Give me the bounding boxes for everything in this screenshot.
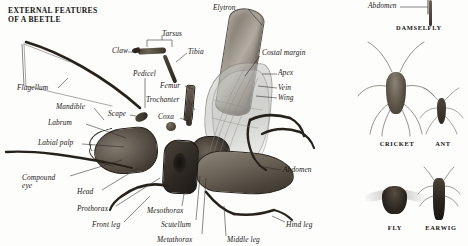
label-mandible: Mandible: [56, 103, 85, 111]
label-middle-leg: Middle leg: [227, 236, 260, 244]
label-head: Head: [77, 188, 93, 196]
label-prothorax: Prothorax: [77, 205, 108, 213]
flagellum-leader: [58, 78, 68, 88]
label-labrum: Labrum: [48, 119, 72, 127]
femur-specimen: [183, 85, 195, 122]
page-title: EXTERNAL FEATURES OF A BEETLE: [8, 6, 98, 25]
caption-damselfly: DAMSELFLY: [388, 24, 450, 31]
caption-cricket: CRICKET: [366, 140, 428, 147]
label-apex: Apex: [278, 69, 293, 77]
earwig-specimen: [433, 178, 445, 220]
label-compound-eye: Compound eye: [22, 174, 55, 190]
label-scutellum: Scutellum: [161, 221, 191, 229]
abdomen-specimen: [195, 149, 296, 198]
hindleg-leader: [272, 216, 285, 222]
tibia-specimen: [163, 54, 178, 83]
ant-specimen: [437, 98, 446, 124]
fly-specimen: [382, 186, 407, 214]
mandible-leader: [94, 108, 104, 120]
label-femur: Femur: [160, 82, 180, 90]
label-coxa: Coxa: [158, 113, 174, 121]
label-metathorax: Metathorax: [157, 236, 192, 244]
cricket-specimen: [386, 72, 406, 114]
prothorax-specimen: [162, 139, 200, 195]
label-flagellum: Flagellum: [17, 84, 48, 92]
caption-fly: FLY: [376, 224, 414, 231]
diagram-page: EXTERNAL FEATURES OF A BEETLE: [0, 0, 468, 246]
flagellum-bracket-a: [22, 44, 24, 86]
damselfly-specimen: [429, 0, 432, 26]
tibia-leader: [176, 53, 187, 62]
label-elytron: Elytron: [213, 4, 236, 12]
label-tibia: Tibia: [188, 48, 204, 56]
prothorax-leader: [116, 178, 160, 206]
label-abdomen-beetle: Abdomen: [283, 166, 312, 174]
label-tarsus: Tarsus: [162, 30, 182, 38]
middleleg-leader: [224, 206, 226, 236]
label-costal-margin: Costal margin: [262, 49, 306, 57]
label-front-leg: Front leg: [92, 221, 120, 229]
caption-ant: ANT: [424, 140, 462, 147]
label-hind-leg: Hind leg: [286, 221, 312, 229]
scape-specimen: [134, 111, 149, 123]
label-vein: Vein: [278, 84, 291, 92]
trochanter-specimen: [186, 119, 192, 126]
label-claw: Claw: [112, 47, 128, 55]
label-trochanter: Trochanter: [146, 96, 180, 104]
coxa-specimen: [166, 122, 176, 131]
label-scape: Scape: [108, 110, 126, 118]
label-labial-palp: Labial palp: [38, 139, 73, 147]
tarsus-specimen: [138, 47, 166, 54]
label-wing: Wing: [278, 94, 294, 102]
caption-earwig: EARWIG: [418, 224, 464, 231]
label-pedicel: Pedicel: [133, 70, 156, 78]
label-mesothorax: Mesothorax: [147, 207, 183, 215]
label-abdomen-damselfly: Abdomen: [368, 2, 397, 10]
